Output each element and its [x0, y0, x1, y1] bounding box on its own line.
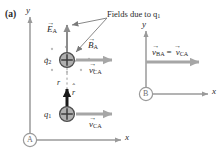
v-BA-symbol: v — [152, 47, 156, 57]
frame-b-origin-label: B — [143, 90, 148, 98]
field-dot — [80, 48, 82, 50]
velocity-label-q2: vCA — [89, 66, 102, 75]
separation-label-r: r — [57, 79, 60, 87]
charge-q2-symbol — [60, 53, 75, 68]
charge-q1-label: q1 — [44, 110, 51, 119]
v-CA-symbol: v — [174, 47, 180, 57]
frame-a-y-axis-label: y — [26, 6, 30, 15]
physics-field-diagram: (a) y x A Fields due to q1 EA BA q2 q1 r… — [0, 0, 221, 154]
velocity-label-q1: vCA — [89, 120, 102, 129]
field-dot — [51, 48, 53, 50]
q1-subscript: 1 — [48, 112, 51, 119]
diagram-canvas — [0, 0, 221, 154]
v-CA-subscript: CA — [180, 50, 189, 57]
v-subscript-q2: CA — [93, 68, 102, 75]
fields-caption: Fields due to q1 — [107, 10, 160, 19]
frame-a-axes — [23, 17, 121, 147]
panel-label: (a) — [5, 10, 16, 20]
field-dot — [51, 69, 53, 71]
charge-q2-label: q2 — [44, 56, 51, 65]
electric-field-label-EA: EA — [47, 25, 57, 34]
fields-caption-subscript: 1 — [157, 12, 160, 19]
velocity-equation-frame-b: vBA=vCA — [152, 48, 188, 57]
magnetic-field-label-BA: BA — [88, 41, 98, 50]
frame-a-origin-label: A — [27, 136, 33, 144]
frame-b-x-axis-label: x — [212, 87, 216, 96]
v-symbol-q2: v — [89, 65, 93, 75]
q2-subscript: 2 — [48, 58, 51, 65]
frame-b-y-axis-label: y — [142, 20, 146, 29]
frame-a-x-axis-label: x — [125, 133, 129, 142]
v-BA-subscript: BA — [156, 50, 165, 57]
B-field-symbol: B — [88, 40, 94, 50]
charge-q1-symbol — [60, 107, 75, 122]
v-subscript-q1: CA — [93, 122, 102, 129]
E-field-symbol: E — [47, 24, 53, 34]
v-symbol-q1: v — [89, 119, 93, 129]
E-field-subscript: A — [53, 27, 57, 34]
equals-sign: = — [165, 47, 174, 57]
fields-caption-text: Fields due to q — [107, 9, 157, 19]
B-field-subscript: A — [94, 43, 98, 50]
field-dot — [80, 69, 82, 71]
